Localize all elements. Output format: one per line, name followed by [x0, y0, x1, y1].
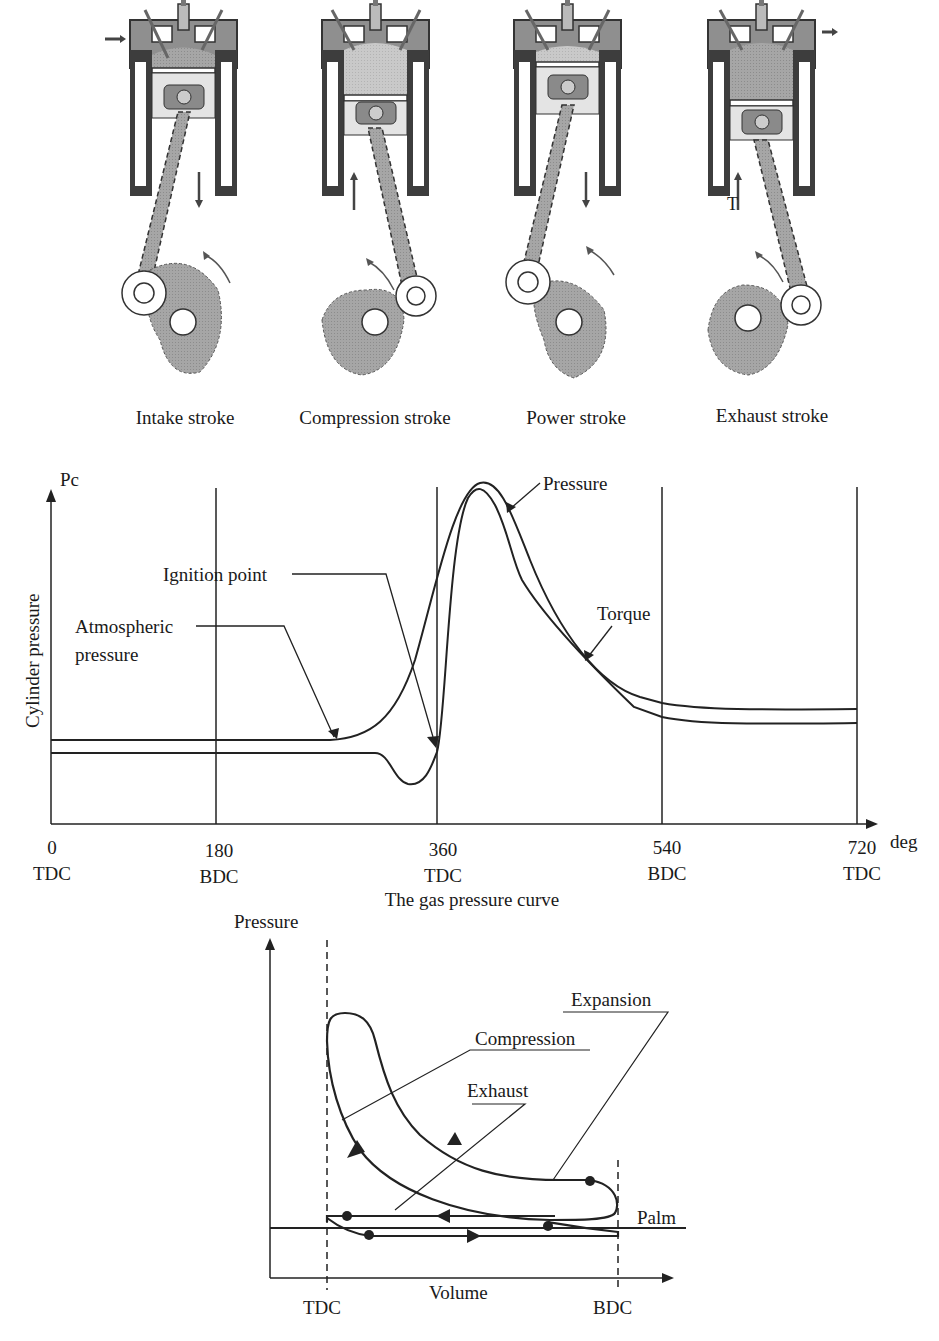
x-tick-value: 540 [647, 835, 686, 861]
x-tick-sub: TDC [424, 863, 462, 889]
x-tick-sub: TDC [843, 861, 881, 887]
pv-exhaust-line [327, 1216, 555, 1222]
x-tick-0: 0 TDC [33, 835, 71, 886]
intake-flow-arrow-icon [105, 35, 126, 43]
compression-label: Compression [475, 1029, 575, 1048]
x-tick-value: 180 [199, 838, 238, 864]
stroke-label-exhaust: Exhaust stroke [716, 406, 828, 425]
pv-x-axis-arrow-icon [662, 1273, 674, 1283]
pressure-curve-label: Pressure [543, 474, 607, 493]
torque-curve-label: Torque [597, 604, 651, 623]
y-axis-symbol-pc: Pc [60, 470, 79, 489]
x-tick-value: 0 [33, 835, 71, 861]
exhaust-direction-arrow-icon [436, 1209, 450, 1223]
pressure-curve [51, 483, 857, 740]
x-tick-360: 360 TDC [424, 837, 462, 888]
t-marker-label: T [727, 195, 738, 213]
expansion-label: Expansion [571, 990, 651, 1009]
atmospheric-annotation-line1: Atmospheric [75, 617, 173, 636]
x-axis-arrow-icon [866, 819, 878, 829]
power-stroke-drawing [506, 0, 621, 378]
x-tick-value: 360 [424, 837, 462, 863]
pv-intake-line [327, 1218, 618, 1236]
atmospheric-annotation-line2: pressure [75, 645, 138, 664]
stroke-label-intake: Intake stroke [136, 408, 235, 427]
stroke-label-power: Power stroke [526, 408, 626, 427]
stroke-label-compression: Compression stroke [299, 408, 450, 427]
palm-label: Palm [637, 1208, 676, 1227]
exhaust-label: Exhaust [467, 1081, 528, 1100]
pv-bdc-label: BDC [593, 1298, 632, 1317]
pv-y-axis-arrow-icon [265, 938, 275, 950]
chart-caption: The gas pressure curve [385, 890, 560, 909]
compression-direction-arrow-icon [347, 1140, 365, 1158]
state-point-dot [342, 1211, 352, 1221]
pv-y-axis-title: Pressure [234, 912, 298, 931]
ignition-point-annotation: Ignition point [163, 565, 267, 584]
x-tick-540: 540 BDC [647, 835, 686, 886]
state-point-dot [585, 1176, 595, 1186]
intake-stroke-drawing [122, 0, 237, 373]
exhaust-stroke-drawing [708, 0, 821, 375]
state-point-dot [364, 1230, 374, 1240]
exhaust-flow-arrow-icon [822, 28, 838, 36]
y-axis-title: Cylinder pressure [22, 593, 44, 728]
pv-tdc-label: TDC [303, 1298, 341, 1317]
x-tick-sub: BDC [199, 864, 238, 890]
x-tick-sub: BDC [647, 861, 686, 887]
x-tick-sub: TDC [33, 861, 71, 887]
x-axis-unit-deg: deg [890, 832, 917, 851]
pv-x-axis-title: Volume [429, 1283, 488, 1302]
expansion-direction-arrow-icon [447, 1132, 462, 1145]
x-tick-180: 180 BDC [199, 838, 238, 889]
intake-direction-arrow-icon [467, 1229, 481, 1243]
x-tick-720: 720 TDC [843, 835, 881, 886]
y-axis-arrow-icon [46, 489, 56, 502]
x-tick-value: 720 [843, 835, 881, 861]
state-point-dot [543, 1221, 553, 1231]
compression-stroke-drawing [322, 0, 436, 375]
engine-strokes-illustration [0, 0, 939, 440]
